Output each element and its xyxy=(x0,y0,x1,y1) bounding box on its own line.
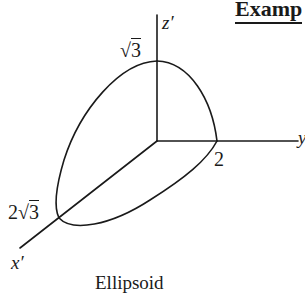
ellipse-arc-xz xyxy=(56,61,157,218)
z-axis-label: z′ xyxy=(162,12,174,34)
x-axis-label: x′ xyxy=(11,252,24,274)
diagram-caption: Ellipsoid xyxy=(95,272,164,294)
sqrt-symbol: √3 xyxy=(18,200,39,224)
ellipse-arc-xy xyxy=(59,141,217,225)
x-intercept-label: 2√3 xyxy=(8,200,39,224)
y-axis-label: y xyxy=(298,127,305,149)
sqrt-symbol: √3 xyxy=(120,38,141,62)
y-intercept-label: 2 xyxy=(214,148,224,171)
z-intercept-label: √3 xyxy=(120,38,141,62)
ellipsoid-diagram xyxy=(0,0,305,298)
ellipse-arc-yz xyxy=(157,61,217,141)
x-axis xyxy=(20,141,157,248)
